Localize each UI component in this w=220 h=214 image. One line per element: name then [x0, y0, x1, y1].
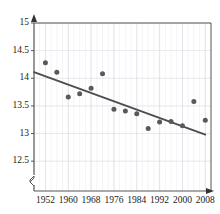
x-tick-label: 1952 — [36, 196, 55, 206]
plot-frame — [34, 23, 211, 191]
x-tick-label: 1960 — [59, 196, 78, 206]
y-tick-label: 13.5 — [12, 101, 29, 111]
x-tick-label: 1984 — [127, 196, 146, 206]
chart-canvas — [0, 0, 220, 214]
y-tick-label: 15 — [20, 18, 30, 28]
x-tick-label: 2000 — [173, 196, 192, 206]
x-tick-label: 1976 — [104, 196, 123, 206]
vertical-gridlines — [40, 23, 206, 191]
x-axis — [34, 188, 214, 194]
y-tick-label: 12.5 — [12, 156, 29, 166]
y-tick-label: 13 — [20, 129, 30, 139]
x-tick-label: 1968 — [82, 196, 101, 206]
y-tick-label: 14 — [20, 74, 30, 84]
x-tick-label: 2008 — [196, 196, 215, 206]
y-axis — [30, 14, 37, 191]
x-tick-label: 1992 — [150, 196, 169, 206]
y-tick-label: 14.5 — [12, 46, 29, 56]
scatter-chart: 12.51313.51414.515 195219601968197619841… — [0, 0, 220, 214]
horizontal-gridlines — [34, 23, 211, 161]
